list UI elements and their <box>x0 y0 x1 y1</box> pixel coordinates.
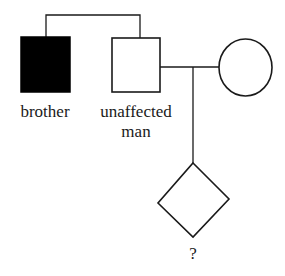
unaffected-man-label-line1: unaffected <box>100 102 172 121</box>
brother-affected-male-square <box>21 37 70 92</box>
brother-label: brother <box>20 102 69 121</box>
pedigree-diagram: brother unaffected man ? <box>0 0 285 276</box>
unaffected-man-label-line2: man <box>121 122 151 141</box>
child-question-label: ? <box>189 244 197 263</box>
partner-female-circle <box>219 39 272 96</box>
unaffected-man-square <box>112 38 160 92</box>
child-unknown-sex-diamond <box>158 163 229 237</box>
sibling-line <box>46 15 140 38</box>
